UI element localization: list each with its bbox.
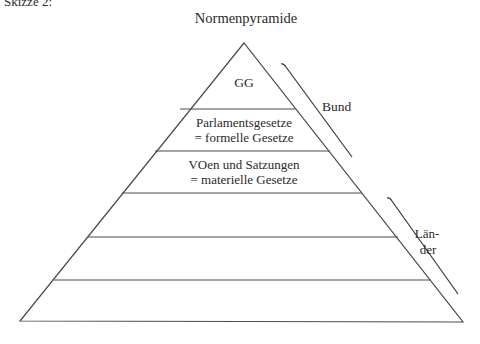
normenpyramide-diagram: Skizze 2: Normenpyramide GG Parlamentsge…: [0, 0, 480, 344]
bund-label: Bund: [322, 99, 352, 114]
level-parlamentsgesetze-line2: = formelle Gesetze: [194, 130, 293, 145]
level-verordnungen-line1: VOen und Satzungen: [188, 157, 300, 172]
level-verordnungen-line2: = materielle Gesetze: [191, 172, 298, 187]
level-parlamentsgesetze-line1: Parlamentsgesetze: [196, 115, 292, 130]
laender-label-line2: der: [420, 242, 437, 257]
caption: Skizze 2:: [4, 0, 52, 9]
level-gg: GG: [234, 75, 254, 90]
diagram-title: Normenpyramide: [195, 10, 297, 26]
laender-label-line1: Län-: [415, 226, 440, 241]
